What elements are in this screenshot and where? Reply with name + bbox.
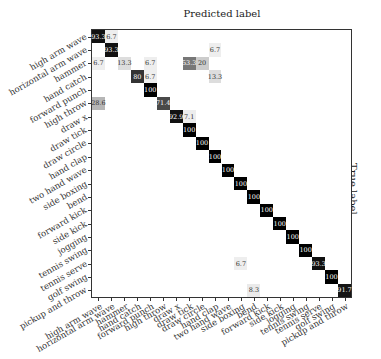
confusion-matrix-plot: 93.36.793.36.76.713.36.753.320806.713.31…	[91, 29, 352, 298]
y-tick-mark	[88, 237, 91, 238]
matrix-cell: 100	[196, 137, 209, 150]
matrix-cell: 100	[234, 177, 247, 190]
y-tick-mark	[88, 184, 91, 185]
y-tick-mark	[88, 143, 91, 144]
y-tick-mark	[88, 130, 91, 131]
matrix-cell: 100	[325, 270, 338, 283]
matrix-cell: 6.7	[105, 30, 118, 43]
matrix-cell: 100	[183, 123, 196, 136]
y-tick-mark	[88, 103, 91, 104]
y-tick-mark	[88, 197, 91, 198]
matrix-cell: 100	[247, 190, 260, 203]
matrix-cell: 13.3	[209, 70, 222, 83]
x-tick-mark	[306, 298, 307, 301]
matrix-cell: 13.3	[118, 57, 131, 70]
matrix-cell: 20	[196, 57, 209, 70]
matrix-cell: 93.3	[92, 30, 105, 43]
x-tick-mark	[254, 298, 255, 301]
matrix-cell: 100	[209, 150, 222, 163]
matrix-cell: 7.1	[183, 110, 196, 123]
y-tick-mark	[88, 250, 91, 251]
y-tick-mark	[88, 264, 91, 265]
y-tick-mark	[88, 63, 91, 64]
y-tick-mark	[88, 210, 91, 211]
matrix-cell: 100	[299, 244, 312, 257]
matrix-cell: 53.3	[183, 57, 196, 70]
matrix-cell: 6.7	[234, 257, 247, 270]
matrix-cell: 6.7	[144, 70, 157, 83]
matrix-cell: 80	[131, 70, 144, 83]
matrix-cell: 93.3	[105, 43, 118, 56]
matrix-cell: 71.4	[157, 97, 170, 110]
y-tick-mark	[88, 90, 91, 91]
x-tick-mark	[293, 298, 294, 301]
y-tick-mark	[88, 157, 91, 158]
matrix-cell: 100	[222, 164, 235, 177]
matrix-cell: 28.6	[92, 97, 105, 110]
matrix-cell: 100	[260, 204, 273, 217]
matrix-cell: 6.7	[92, 57, 105, 70]
matrix-cell: 93.3	[312, 257, 325, 270]
matrix-cell: 6.7	[144, 57, 157, 70]
y-tick-mark	[88, 290, 91, 291]
matrix-cell: 91.7	[338, 284, 351, 297]
y-tick-mark	[88, 117, 91, 118]
matrix-cell: 92.9	[170, 110, 183, 123]
matrix-cell: 100	[144, 83, 157, 96]
y-tick-mark	[88, 50, 91, 51]
y-tick-mark	[88, 277, 91, 278]
y-tick-mark	[88, 224, 91, 225]
x-tick-mark	[202, 298, 203, 301]
matrix-cell: 6.7	[209, 43, 222, 56]
x-axis-title: Predicted label	[91, 8, 353, 19]
matrix-cell: 8.3	[247, 284, 260, 297]
y-tick-mark	[88, 77, 91, 78]
y-tick-mark	[88, 170, 91, 171]
matrix-cell: 100	[273, 217, 286, 230]
matrix-cell: 100	[286, 230, 299, 243]
y-tick-mark	[88, 37, 91, 38]
